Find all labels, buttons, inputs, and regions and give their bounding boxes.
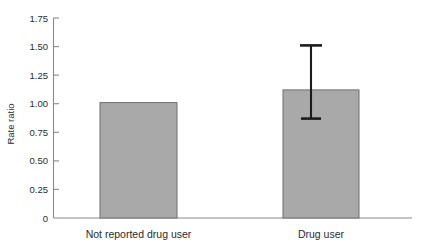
y-axis-title: Rate ratio [5,103,16,144]
y-tick-label-0.50: 0.50 [30,155,49,166]
x-category-label-drug-user: Drug user [298,228,345,240]
bar-chart-figure: 1.75 1.50 1.25 1.00 0.75 0.50 0.25 0 Rat… [0,0,424,247]
x-category-label-not-reported-drug-user: Not reported drug user [86,228,192,240]
y-tick-label-1.00: 1.00 [30,98,49,109]
y-tick-label-0.25: 0.25 [30,184,49,195]
chart-container: 1.75 1.50 1.25 1.00 0.75 0.50 0.25 0 Rat… [0,0,424,247]
y-tick-label-0.75: 0.75 [30,127,49,138]
y-tick-label-1.25: 1.25 [30,70,49,81]
bar-not-reported-drug-user[interactable] [100,103,177,218]
y-tick-label-1.50: 1.50 [30,41,49,52]
y-tick-label-1.75: 1.75 [30,13,49,24]
bar-drug-user[interactable] [283,90,359,218]
chart-background [0,0,424,247]
y-tick-label-0: 0 [43,213,48,224]
